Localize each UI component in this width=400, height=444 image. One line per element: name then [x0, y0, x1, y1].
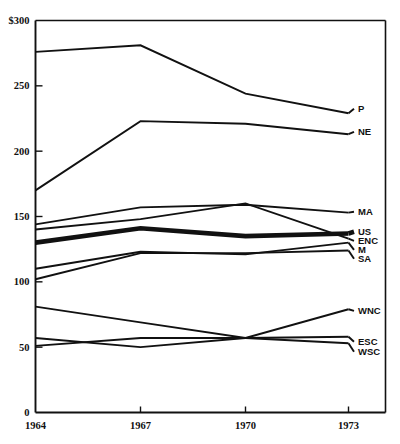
series-line-m: [36, 243, 349, 269]
y-tick-label: 250: [14, 80, 30, 91]
y-axis-ticks: $300250200150100500: [9, 15, 43, 418]
line-chart: $300250200150100500 1964196719701973 PNE…: [0, 0, 400, 444]
chart-canvas: $300250200150100500 1964196719701973 PNE…: [0, 0, 400, 444]
x-axis-ticks: 1964196719701973: [25, 407, 359, 431]
series-lines: [36, 45, 355, 351]
series-leader-enc: [349, 239, 355, 241]
series-leader-wnc: [349, 309, 355, 311]
series-label-ma: MA: [358, 206, 373, 217]
series-line-p: [36, 45, 349, 113]
y-tick-label: 0: [24, 407, 29, 418]
x-tick-label: 1970: [235, 420, 256, 431]
series-line-ne: [36, 121, 349, 190]
series-line-us: [36, 228, 349, 242]
series-label-wsc: WSC: [358, 346, 380, 357]
series-leader-esc: [349, 337, 355, 342]
series-label-p: P: [358, 103, 365, 114]
series-leader-wsc: [349, 343, 355, 352]
series-leader-ne: [349, 132, 355, 134]
series-leader-p: [349, 109, 355, 113]
series-label-sa: SA: [358, 253, 371, 264]
series-label-wnc: WNC: [358, 305, 381, 316]
series-leader-us: [349, 232, 355, 234]
y-tick-label: 50: [19, 342, 30, 353]
series-end-labels: PNEMAUSENCMSAWNCESCWSC: [358, 103, 381, 357]
series-line-sa: [36, 250, 349, 279]
x-tick-label: 1964: [25, 420, 47, 431]
x-tick-label: 1967: [130, 420, 151, 431]
series-leader-m: [349, 243, 355, 250]
y-tick-label: $300: [9, 15, 30, 26]
x-tick-label: 1973: [338, 420, 359, 431]
y-tick-label: 200: [14, 146, 30, 157]
series-leader-sa: [349, 250, 355, 258]
y-tick-label: 150: [14, 211, 30, 222]
y-tick-label: 100: [14, 276, 30, 287]
series-leader-ma: [349, 212, 355, 213]
series-label-ne: NE: [358, 126, 371, 137]
series-line-ma: [36, 205, 349, 225]
series-line-wnc: [36, 307, 349, 338]
